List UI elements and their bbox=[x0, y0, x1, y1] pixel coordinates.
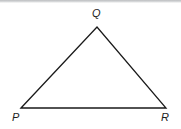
triangle-pqr-outline bbox=[21, 27, 166, 108]
vertex-label-q: Q bbox=[92, 8, 101, 19]
vertex-label-r: R bbox=[161, 112, 169, 123]
triangle-diagram bbox=[0, 0, 181, 129]
vertex-label-p: P bbox=[12, 112, 19, 123]
geometry-figure: Q P R bbox=[0, 0, 181, 129]
